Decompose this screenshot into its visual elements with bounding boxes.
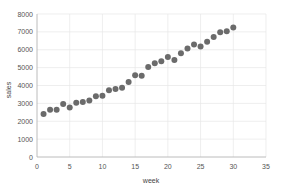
x-axis-title: week [142, 177, 160, 184]
chart-canvas: 010002000300040005000600070008000 051015… [0, 0, 283, 191]
data-point [145, 64, 151, 70]
data-point [41, 111, 47, 117]
data-point [198, 44, 204, 50]
data-point [178, 50, 184, 56]
data-point [211, 34, 217, 40]
data-point [132, 72, 138, 78]
data-point [86, 98, 92, 104]
data-point [54, 107, 60, 113]
data-point [80, 99, 86, 105]
chart-background [0, 0, 283, 191]
data-point [113, 86, 119, 92]
y-tick-label: 8000 [17, 11, 33, 18]
data-point [99, 93, 105, 99]
data-point [126, 79, 132, 85]
data-point [230, 24, 236, 30]
x-tick-label: 20 [164, 163, 172, 170]
data-point [224, 28, 230, 34]
x-tick-label: 10 [99, 163, 107, 170]
data-point [191, 41, 197, 47]
x-tick-label: 25 [197, 163, 205, 170]
data-point [158, 58, 164, 64]
data-point [139, 73, 145, 79]
y-tick-label: 6000 [17, 46, 33, 53]
y-tick-label: 4000 [17, 82, 33, 89]
data-point [47, 107, 53, 113]
data-point [106, 87, 112, 93]
y-tick-label: 0 [29, 154, 33, 161]
data-point [171, 57, 177, 63]
data-point [204, 39, 210, 45]
data-point [93, 93, 99, 99]
x-tick-label: 5 [68, 163, 72, 170]
scatter-chart-figure: 010002000300040005000600070008000 051015… [0, 0, 283, 191]
data-point [119, 85, 125, 91]
data-point [217, 29, 223, 35]
y-tick-label: 5000 [17, 64, 33, 71]
y-tick-label: 1000 [17, 136, 33, 143]
data-point [73, 100, 79, 106]
x-tick-label: 30 [229, 163, 237, 170]
y-tick-label: 7000 [17, 28, 33, 35]
x-tick-label: 15 [131, 163, 139, 170]
y-axis-title: sales [5, 81, 12, 98]
y-tick-label: 2000 [17, 118, 33, 125]
y-tick-label: 3000 [17, 100, 33, 107]
data-point [165, 54, 171, 60]
y-tick-labels: 010002000300040005000600070008000 [17, 11, 33, 161]
x-tick-label: 0 [35, 163, 39, 170]
data-point [184, 45, 190, 51]
x-tick-label: 35 [262, 163, 270, 170]
data-point [152, 60, 158, 66]
data-point [60, 101, 66, 107]
data-point [67, 104, 73, 110]
